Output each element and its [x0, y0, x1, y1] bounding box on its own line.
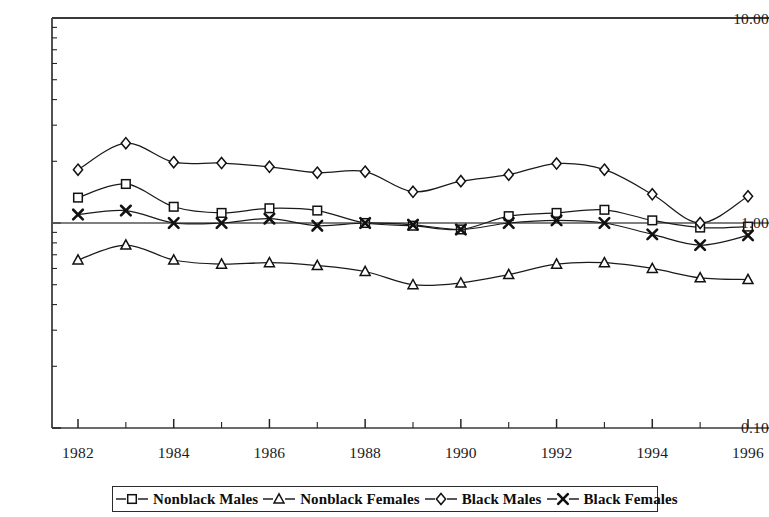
- x-axis-tick-label-1982: 1982: [48, 444, 108, 462]
- legend-item-black-males: Black Males: [422, 491, 544, 508]
- x-axis-tick-label-1996: 1996: [718, 444, 769, 462]
- legend-label: Black Males: [462, 491, 542, 508]
- x-axis-tick-label-1992: 1992: [527, 444, 587, 462]
- series-layer: [73, 138, 753, 289]
- legend-item-nonblack-females: Nonblack Females: [260, 491, 422, 508]
- series-nonblack-females: [73, 240, 753, 289]
- x-axis-tick-label-1990: 1990: [431, 444, 491, 462]
- y-axis-tick-label-mid: 1.00: [723, 215, 769, 231]
- x-axis-tick-label-1984: 1984: [144, 444, 204, 462]
- triangle-marker-icon: [262, 492, 296, 506]
- x-axis-tick-label-1994: 1994: [622, 444, 682, 462]
- cross-marker-icon: [546, 492, 580, 506]
- x-axis-tick-label-1986: 1986: [239, 444, 299, 462]
- chart-canvas: [0, 0, 769, 440]
- y-axis-tick-label-bottom: 0.10: [723, 420, 769, 436]
- chart-figure: 10.00 1.00 0.10 198219841986198819901992…: [0, 0, 769, 517]
- series-black-males: [73, 138, 752, 229]
- legend-item-black-females: Black Females: [544, 491, 680, 508]
- legend-label: Nonblack Males: [153, 491, 258, 508]
- legend-label: Nonblack Females: [300, 491, 420, 508]
- legend-item-nonblack-males: Nonblack Males: [113, 491, 260, 508]
- x-axis-tick-label-1988: 1988: [335, 444, 395, 462]
- plot-area: 10.00 1.00 0.10 198219841986198819901992…: [0, 0, 769, 440]
- legend-label: Black Females: [584, 491, 678, 508]
- chart-legend: Nonblack MalesNonblack FemalesBlack Male…: [112, 486, 658, 512]
- diamond-marker-icon: [424, 492, 458, 506]
- square-marker-icon: [115, 492, 149, 506]
- y-axis-tick-label-top: 10.00: [723, 11, 769, 27]
